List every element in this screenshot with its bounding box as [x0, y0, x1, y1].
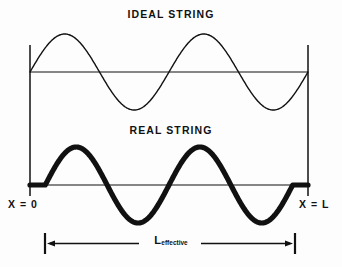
ideal-string-panel	[30, 34, 308, 196]
x-origin-label: X = 0	[8, 198, 38, 210]
real-string-panel	[30, 147, 308, 223]
ideal-string-title: IDEAL STRING	[0, 8, 342, 20]
effective-length-label: Leffective	[0, 234, 342, 246]
string-wave-figure: IDEAL STRING REAL STRING X = 0 X = L Lef…	[0, 0, 342, 267]
real-string-title: REAL STRING	[0, 124, 342, 136]
x-end-label: X = L	[299, 198, 329, 210]
effective-length-subscript: effective	[161, 239, 187, 246]
